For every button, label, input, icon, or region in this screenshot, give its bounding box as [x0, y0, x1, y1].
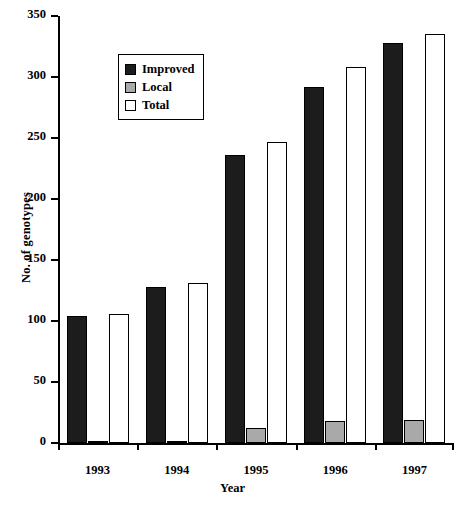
bar-total-1994 — [188, 283, 208, 443]
black-square-icon — [125, 64, 136, 75]
bar-local-1995 — [246, 428, 266, 443]
bar-chart: No. of genotypes 050100150200250300350 1… — [0, 0, 465, 505]
legend-item-improved: Improved — [125, 60, 195, 78]
bar-improved-1996 — [304, 87, 324, 443]
bar-improved-1995 — [225, 155, 245, 443]
white-square-icon — [125, 100, 136, 111]
y-tick: 350 — [51, 15, 58, 17]
y-tick: 50 — [51, 381, 58, 383]
x-tick — [452, 443, 454, 450]
bar-local-1997 — [404, 420, 424, 443]
x-tick-label-1995: 1995 — [244, 463, 269, 478]
bar-local-1996 — [325, 421, 345, 443]
y-tick: 100 — [51, 320, 58, 322]
y-tick: 300 — [51, 76, 58, 78]
x-tick-label-1996: 1996 — [323, 463, 348, 478]
bar-local-1993 — [88, 441, 108, 443]
bar-total-1993 — [109, 314, 129, 443]
x-tick — [375, 443, 377, 450]
legend-label-local: Local — [142, 80, 172, 95]
y-tick-label-350: 350 — [27, 7, 46, 22]
x-axis-label: Year — [0, 481, 465, 496]
y-tick: 250 — [51, 137, 58, 139]
y-tick: 0 — [51, 442, 58, 444]
y-axis-label: No. of genotypes — [19, 158, 34, 318]
y-tick-label-0: 0 — [40, 434, 46, 449]
x-tick — [58, 443, 60, 450]
chart-legend: Improved Local Total — [118, 54, 204, 120]
bar-local-1994 — [167, 441, 187, 443]
x-tick — [216, 443, 218, 450]
gray-square-icon — [125, 82, 136, 93]
y-axis-line — [58, 16, 60, 443]
x-tick — [137, 443, 139, 450]
y-tick-label-100: 100 — [27, 312, 46, 327]
y-tick-label-50: 50 — [34, 373, 47, 388]
bar-improved-1993 — [67, 316, 87, 443]
bar-improved-1994 — [146, 287, 166, 443]
x-tick — [296, 443, 298, 450]
y-tick: 200 — [51, 198, 58, 200]
y-tick-label-300: 300 — [27, 68, 46, 83]
y-tick-label-150: 150 — [27, 251, 46, 266]
x-tick-label-1993: 1993 — [85, 463, 110, 478]
x-tick-label-1997: 1997 — [402, 463, 427, 478]
bar-total-1997 — [425, 34, 445, 443]
legend-label-total: Total — [142, 98, 169, 113]
y-tick-label-200: 200 — [27, 190, 46, 205]
y-tick: 150 — [51, 259, 58, 261]
x-axis-line — [58, 443, 454, 445]
legend-item-local: Local — [125, 78, 195, 96]
bar-improved-1997 — [383, 43, 403, 443]
legend-item-total: Total — [125, 96, 195, 114]
bar-total-1996 — [346, 67, 366, 443]
x-tick-label-1994: 1994 — [164, 463, 189, 478]
legend-label-improved: Improved — [142, 62, 195, 77]
bar-total-1995 — [267, 142, 287, 443]
y-tick-label-250: 250 — [27, 129, 46, 144]
